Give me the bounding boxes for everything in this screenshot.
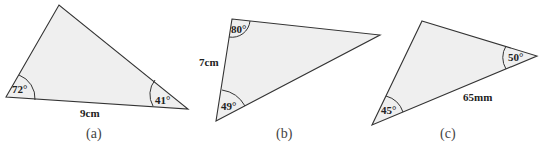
angle-label-b-49: 49° [221, 100, 236, 112]
caption-c: (c) [440, 126, 456, 142]
triangle-c: 50° 45° 65mm (c) [372, 21, 537, 142]
triangles-diagram: 72° 41° 9cm (a) 80° 49° 7cm (b) 50° 45° … [0, 0, 544, 148]
side-label-b: 7cm [199, 56, 219, 68]
angle-label-b-80: 80° [231, 23, 246, 35]
triangle-b: 80° 49° 7cm (b) [199, 19, 380, 142]
angle-label-a-41: 41° [155, 94, 170, 106]
angle-label-c-50: 50° [508, 51, 523, 63]
caption-a: (a) [86, 126, 102, 142]
angle-label-a-72: 72° [12, 83, 27, 95]
angle-label-c-45: 45° [381, 104, 396, 116]
side-label-c: 65mm [463, 91, 492, 103]
triangle-a: 72° 41° 9cm (a) [6, 5, 188, 142]
caption-b: (b) [276, 126, 293, 142]
triangle-c-shape [372, 21, 537, 125]
side-label-a: 9cm [80, 107, 100, 119]
